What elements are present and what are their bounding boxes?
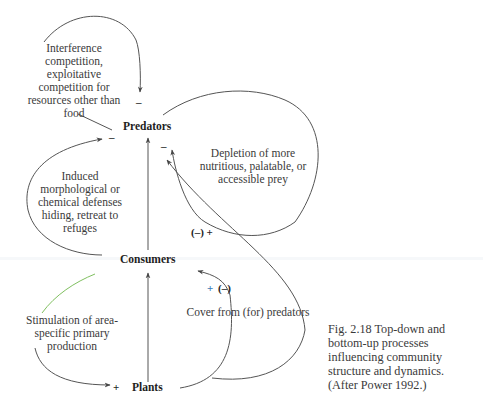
- label-line: specific primary: [20, 327, 124, 340]
- label-line: production: [20, 340, 124, 353]
- label-line: Interference: [14, 42, 134, 55]
- label-line: Stimulation of area-: [20, 314, 124, 327]
- stimulation-loop-bottom: [35, 348, 110, 385]
- sign-consumers-plants-plus: +: [207, 282, 213, 294]
- plants-to-predators-arrow: [167, 160, 305, 379]
- label-line: competition,: [14, 55, 134, 68]
- sign-predators-plants-pair: (–) +: [191, 226, 213, 238]
- depletion-label: Depletion of more nutritious, palatable,…: [183, 147, 323, 186]
- sign-plants-left: +: [113, 381, 119, 393]
- node-consumers: Consumers: [120, 253, 176, 265]
- sign-predators-top: –: [136, 96, 142, 108]
- node-predators: Predators: [123, 120, 171, 132]
- label-line: refuges: [28, 222, 132, 235]
- caption-line: (After Power 1992.): [328, 378, 478, 392]
- label-line: accessible prey: [183, 173, 323, 186]
- caption-line: structure and dynamics.: [328, 364, 478, 378]
- sign-consumers-plants-minus: (–): [218, 282, 231, 294]
- label-line: Depletion of more: [183, 147, 323, 160]
- stimulation-label: Stimulation of area- specific primary pr…: [20, 314, 124, 353]
- sign-predators-left: –: [109, 131, 115, 143]
- induced-label: Induced morphological or chemical defens…: [28, 170, 132, 235]
- label-line: food: [14, 107, 134, 120]
- figure-caption: Fig. 2.18 Top-down and bottom-up process…: [328, 322, 478, 392]
- caption-line: influencing community: [328, 350, 478, 364]
- label-line: morphological or: [28, 183, 132, 196]
- label-line: exploitative: [14, 68, 134, 81]
- cover-label: Cover from (for) predators: [178, 306, 318, 319]
- label-line: Induced: [28, 170, 132, 183]
- stimulation-loop-top: [42, 274, 95, 313]
- interference-label: Interference competition, exploitative c…: [14, 42, 134, 120]
- label-line: chemical defenses: [28, 196, 132, 209]
- caption-line: Fig. 2.18 Top-down and: [328, 322, 478, 336]
- label-line: nutritious, palatable, or: [183, 160, 323, 173]
- sign-predators-right: –: [161, 140, 167, 152]
- label-line: resources other than: [14, 94, 134, 107]
- label-line: competition for: [14, 81, 134, 94]
- label-line: hiding, retreat to: [28, 209, 132, 222]
- caption-line: bottom-up processes: [328, 336, 478, 350]
- node-plants: Plants: [132, 381, 163, 393]
